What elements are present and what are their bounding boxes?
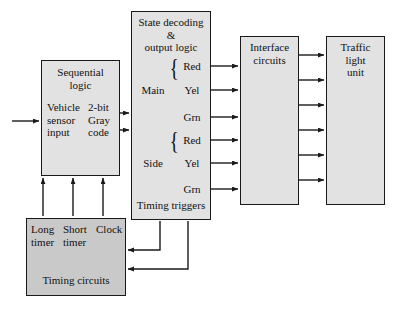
block-diagram: Sequential logic Vehicle sensor input 2-… (0, 0, 393, 309)
wire-timing-trigger-2 (128, 221, 188, 269)
signal-main-yel: Yel (178, 84, 206, 97)
signal-side-red: Red (178, 134, 206, 147)
traffic-light-unit-title: Traffic light unit (326, 41, 385, 79)
timer-short: Short timer (63, 223, 97, 248)
group-label-main: Main (138, 84, 168, 97)
state-decoding-title: State decoding & output logic (131, 16, 211, 54)
signal-main-red: Red (178, 60, 206, 73)
timing-circuits-title: Timing circuits (26, 274, 126, 287)
signal-side-yel: Yel (178, 157, 206, 170)
sequential-logic-input-label: Vehicle sensor input (47, 101, 91, 139)
timing-triggers-label: Timing triggers (129, 199, 213, 212)
group-label-side: Side (138, 157, 168, 170)
sequential-logic-output-label: 2-bit Gray code (88, 101, 122, 139)
timer-clock: Clock (96, 223, 128, 236)
sequential-logic-title: Sequential logic (41, 66, 120, 91)
interface-circuits-title: Interface circuits (240, 41, 299, 66)
signal-main-grn: Grn (178, 111, 206, 124)
signal-side-grn: Grn (178, 183, 206, 196)
wire-timing-trigger-1 (128, 221, 160, 250)
timer-long: Long timer (31, 223, 63, 248)
